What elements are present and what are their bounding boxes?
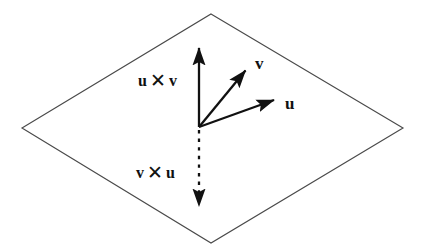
- label-u: u: [285, 95, 294, 112]
- label-v-cross-u-left: v: [136, 165, 144, 181]
- label-u-cross-v-right: v: [169, 73, 177, 89]
- label-u-cross-v-left: u: [138, 73, 147, 89]
- label-u-cross-v: u ✕ v: [138, 71, 177, 90]
- cross-product-diagram: [0, 0, 422, 252]
- label-v: v: [255, 55, 264, 72]
- label-v-cross-u: v ✕ u: [136, 163, 175, 182]
- cross-product-icon: ✕: [149, 71, 167, 90]
- plane-rhombus: [22, 14, 403, 243]
- cross-product-icon: ✕: [146, 163, 164, 182]
- figure-container: u ✕ v v ✕ u v u: [0, 0, 422, 252]
- label-v-cross-u-right: u: [166, 165, 175, 181]
